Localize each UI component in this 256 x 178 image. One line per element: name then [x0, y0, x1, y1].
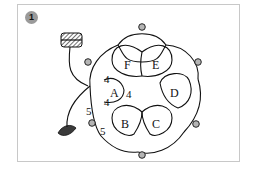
picot-upper-left	[85, 59, 92, 66]
ring-label-b: B	[121, 117, 129, 131]
stitch-count-a-bottom: 4	[104, 96, 110, 108]
picot-bottom	[139, 152, 146, 159]
tatting-diagram: A B C D E F 4 4 4 5 5	[0, 0, 256, 178]
ring-label-e: E	[152, 58, 159, 72]
ring-label-a: A	[110, 86, 119, 100]
ring-label-f: F	[124, 58, 131, 72]
shuttle-icon	[61, 33, 82, 47]
picot-lower-left	[89, 120, 96, 127]
ring-label-c: C	[152, 117, 160, 131]
shuttle-thread	[69, 47, 88, 86]
chain-arcs	[90, 34, 201, 153]
stitch-count-chain-bottom: 5	[100, 125, 106, 137]
ring-label-d: D	[170, 86, 179, 100]
picot-upper-right	[195, 59, 202, 66]
picot-lower-right	[193, 121, 200, 128]
stitch-count-a-top: 4	[104, 73, 110, 85]
picot-top	[139, 24, 146, 31]
stitch-count-chain-left: 5	[86, 105, 92, 117]
stitch-count-a-right: 4	[126, 88, 132, 100]
picots	[85, 24, 202, 159]
